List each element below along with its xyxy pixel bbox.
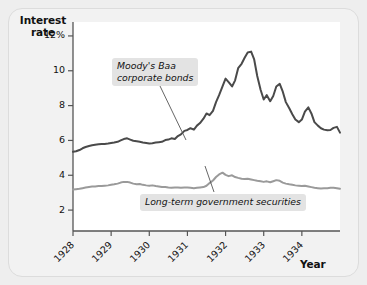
y-tick-label: 6: [23, 135, 65, 145]
y-tick-label: 10: [23, 65, 65, 75]
figure-root: Interest rate Year 24681012% 19281929193…: [0, 0, 367, 285]
series-line-govt-securities: [73, 173, 340, 190]
annotation-baa-line1: Moody's Baa: [117, 60, 193, 72]
y-tick-label: 4: [23, 170, 65, 180]
y-axis-title-line1: Interest: [14, 14, 72, 26]
annotation-baa-line2: corporate bonds: [117, 72, 193, 84]
x-axis-title: Year: [300, 258, 346, 270]
leader-line-baa: [160, 86, 186, 140]
y-tick-label: 8: [23, 100, 65, 110]
annotation-govt-securities: Long-term government securities: [140, 194, 306, 211]
y-tick-label: 2: [23, 205, 65, 215]
annotation-baa-corporate-bonds: Moody's Baa corporate bonds: [112, 58, 198, 86]
y-tick-label: 12%: [23, 30, 65, 40]
leader-line-govt: [205, 166, 214, 192]
